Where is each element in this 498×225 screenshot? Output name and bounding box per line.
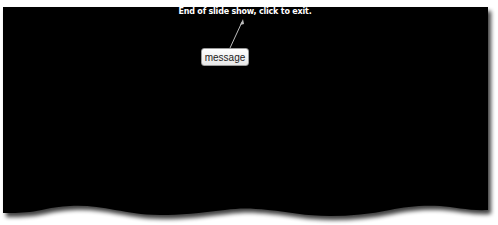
end-of-slideshow-message[interactable]: End of slide show, click to exit. <box>0 7 490 16</box>
callout-label: message <box>205 52 246 63</box>
screenshot-stage: End of slide show, click to exit. messag… <box>0 0 498 225</box>
annotation-callout: message <box>201 48 249 66</box>
slide-show-end-screen[interactable] <box>0 0 498 225</box>
